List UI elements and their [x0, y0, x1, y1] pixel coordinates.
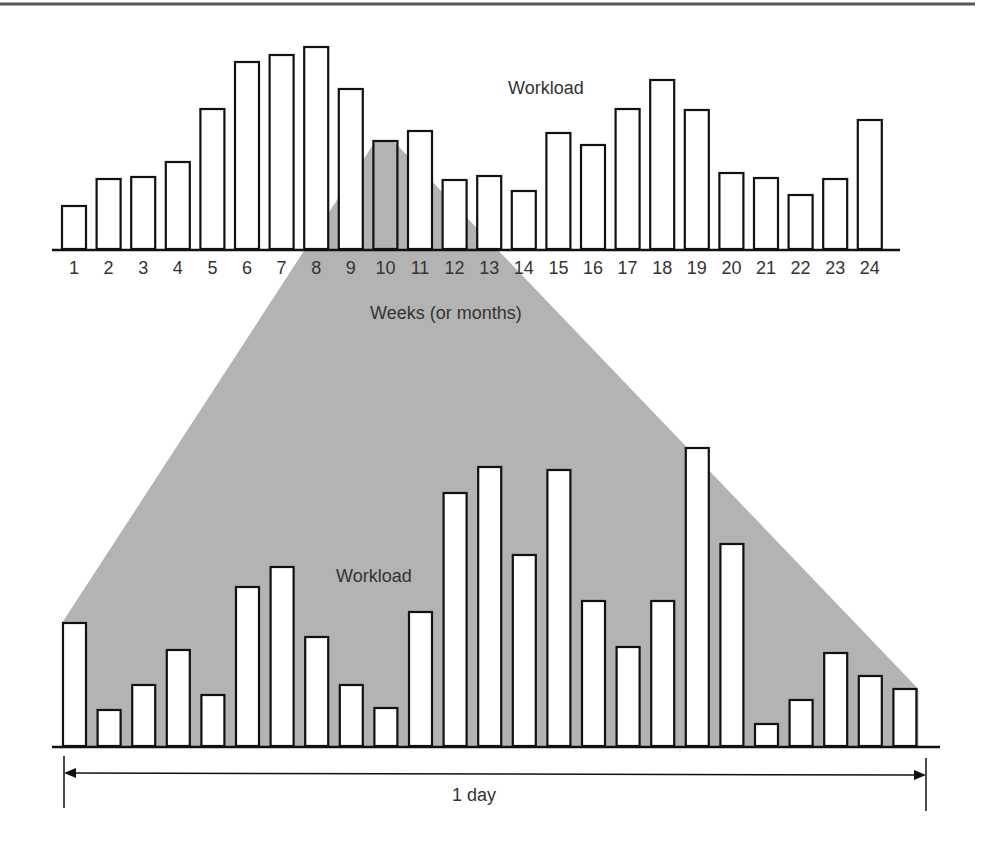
- bar-19: [686, 448, 709, 746]
- upper-x-axis-title: Weeks (or months): [370, 303, 522, 324]
- x-tick-18: 18: [645, 258, 679, 279]
- x-tick-12: 12: [438, 258, 472, 279]
- bar-14: [512, 191, 536, 249]
- bar-16: [582, 601, 605, 746]
- x-tick-22: 22: [784, 258, 818, 279]
- x-tick-5: 5: [195, 258, 229, 279]
- bar-7: [270, 55, 294, 249]
- x-tick-7: 7: [265, 258, 299, 279]
- bar-20: [719, 173, 743, 249]
- upper-bar-chart: [62, 47, 882, 249]
- bar-23: [824, 653, 847, 746]
- bar-3: [131, 177, 155, 249]
- x-tick-19: 19: [680, 258, 714, 279]
- bar-5: [201, 695, 224, 746]
- bar-8: [304, 47, 328, 249]
- bar-6: [236, 587, 259, 746]
- bar-11: [409, 612, 432, 746]
- bar-15: [546, 133, 570, 249]
- x-tick-10: 10: [368, 258, 402, 279]
- bar-7: [271, 567, 294, 746]
- bar-25: [893, 689, 916, 746]
- bar-11: [408, 131, 432, 249]
- figure-canvas: [0, 0, 981, 854]
- x-tick-13: 13: [472, 258, 506, 279]
- bar-21: [755, 724, 778, 746]
- x-tick-14: 14: [507, 258, 541, 279]
- bar-9: [339, 89, 363, 249]
- bar-2: [98, 710, 121, 746]
- x-tick-1: 1: [57, 258, 91, 279]
- bar-1: [62, 206, 86, 249]
- bar-12: [443, 180, 467, 249]
- x-tick-17: 17: [611, 258, 645, 279]
- bar-23: [823, 179, 847, 249]
- bar-21: [754, 178, 778, 249]
- bar-17: [617, 647, 640, 746]
- bar-2: [97, 179, 121, 249]
- x-tick-15: 15: [541, 258, 575, 279]
- x-tick-6: 6: [230, 258, 264, 279]
- bar-10: [374, 708, 397, 746]
- arrow-left-icon: [64, 768, 76, 778]
- x-tick-2: 2: [92, 258, 126, 279]
- bar-22: [790, 700, 813, 746]
- x-tick-24: 24: [853, 258, 887, 279]
- x-tick-4: 4: [161, 258, 195, 279]
- bar-1: [63, 623, 86, 746]
- day-span-label: 1 day: [452, 785, 496, 806]
- bar-24: [858, 120, 882, 249]
- bar-22: [789, 195, 813, 249]
- bar-20: [720, 544, 743, 746]
- workload-zoom-figure: 123456789101112131415161718192021222324 …: [0, 0, 981, 854]
- x-tick-9: 9: [334, 258, 368, 279]
- bar-18: [651, 601, 674, 746]
- bar-18: [650, 80, 674, 249]
- bar-24: [859, 676, 882, 746]
- bar-4: [167, 650, 190, 746]
- bar-4: [166, 162, 190, 249]
- bar-16: [581, 145, 605, 249]
- bar-13: [478, 467, 501, 746]
- bar-12: [444, 493, 467, 746]
- span-line: [70, 773, 920, 775]
- x-tick-8: 8: [299, 258, 333, 279]
- bar-5: [200, 109, 224, 249]
- bar-8: [305, 637, 328, 746]
- bar-17: [616, 109, 640, 249]
- bar-19: [685, 110, 709, 249]
- x-tick-11: 11: [403, 258, 437, 279]
- x-tick-21: 21: [749, 258, 783, 279]
- x-tick-3: 3: [126, 258, 160, 279]
- x-tick-20: 20: [714, 258, 748, 279]
- arrow-right-icon: [914, 770, 926, 780]
- bar-9: [340, 685, 363, 746]
- bar-14: [513, 555, 536, 746]
- bar-3: [132, 685, 155, 746]
- bar-13: [477, 176, 501, 249]
- lower-workload-label: Workload: [336, 566, 412, 587]
- x-tick-16: 16: [576, 258, 610, 279]
- x-tick-23: 23: [818, 258, 852, 279]
- bar-6: [235, 62, 259, 249]
- bar-15: [547, 470, 570, 746]
- upper-workload-label: Workload: [508, 78, 584, 99]
